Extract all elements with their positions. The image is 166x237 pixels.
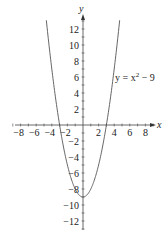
y-tick-label: −2 — [68, 136, 79, 147]
x-tick-label: 8 — [143, 127, 148, 138]
x-tick-label: 4 — [112, 127, 117, 138]
parabola-chart: x y −8−6−4−22468 12108642−2−4−6−8−10−12 … — [0, 0, 166, 237]
y-tick-label: 10 — [69, 40, 79, 51]
equation-prefix: y = x — [115, 72, 136, 83]
x-tick-label: 2 — [96, 127, 101, 138]
equation-suffix: − 9 — [139, 72, 155, 83]
y-axis-arrow-icon — [81, 14, 85, 20]
y-tick-label: 4 — [74, 88, 79, 99]
y-tick-label: −10 — [63, 200, 79, 211]
y-tick-label: −4 — [68, 152, 79, 163]
x-tick-label: −6 — [29, 127, 40, 138]
y-axis-label: y — [78, 3, 84, 14]
y-tick-label: 2 — [74, 104, 79, 115]
equation-label: y = x2 − 9 — [115, 71, 155, 83]
y-tick-label: 8 — [74, 56, 79, 67]
y-tick-label: −12 — [63, 216, 79, 227]
x-axis-label: x — [156, 119, 162, 130]
y-tick-label: 6 — [74, 72, 79, 83]
x-tick-label: −8 — [13, 127, 24, 138]
x-tick-label: 6 — [127, 127, 132, 138]
x-tick-label: −4 — [44, 127, 55, 138]
y-tick-label: 12 — [69, 24, 79, 35]
